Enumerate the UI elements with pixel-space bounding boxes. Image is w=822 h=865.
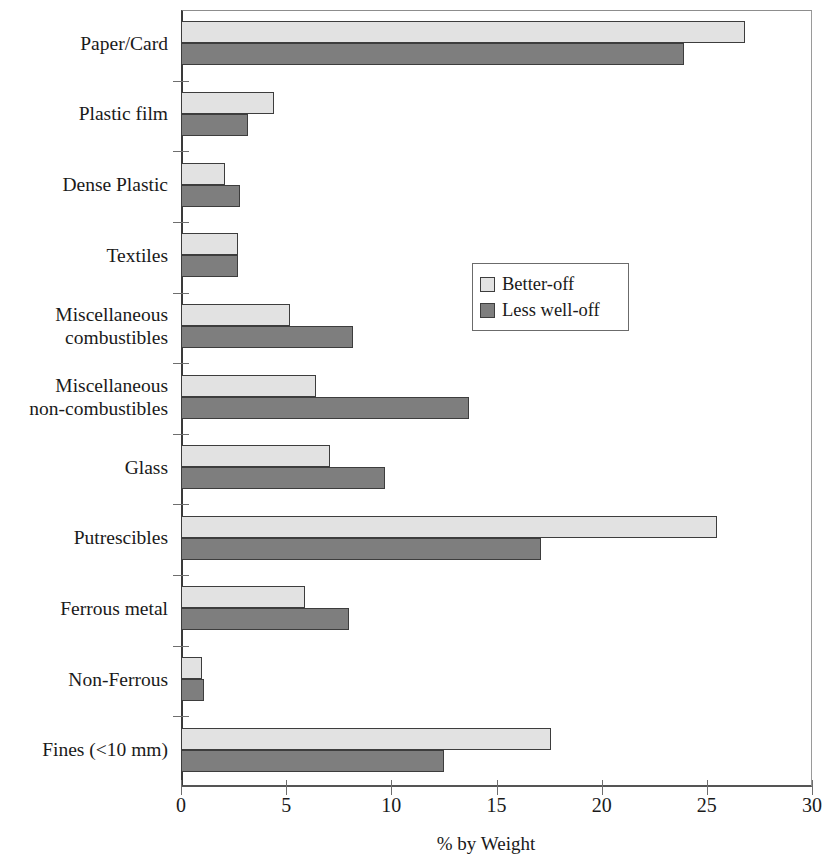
bar-better-off [181, 375, 316, 397]
bar-less-well-off [181, 679, 204, 701]
y-axis-tick [173, 646, 189, 647]
x-axis-tick-label: 20 [572, 794, 632, 817]
category-label: Miscellaneous combustibles [0, 303, 168, 349]
category-label: Putrescibles [0, 526, 168, 549]
bar-better-off [181, 445, 330, 467]
category-label: Non-Ferrous [0, 668, 168, 691]
y-axis-tick [173, 575, 189, 576]
legend-swatch-less-well-off [480, 303, 495, 318]
y-axis-tick [173, 504, 189, 505]
bar-better-off [181, 516, 717, 538]
x-axis-title: % by Weight [0, 833, 822, 855]
bar-better-off [181, 728, 551, 750]
category-label: Dense Plastic [0, 173, 168, 196]
category-label: Fines (<10 mm) [0, 738, 168, 761]
bar-less-well-off [181, 538, 541, 560]
bar-less-well-off [181, 397, 469, 419]
x-axis-tick-label: 0 [151, 794, 211, 817]
x-axis-tick [707, 780, 708, 795]
category-label: Paper/Card [0, 32, 168, 55]
bar-less-well-off [181, 326, 353, 348]
legend-label-less-well-off: Less well-off [502, 300, 600, 320]
y-axis-tick [173, 434, 189, 435]
bar-less-well-off [181, 750, 444, 772]
y-axis-tick [173, 222, 189, 223]
bar-less-well-off [181, 255, 238, 277]
category-label: Glass [0, 456, 168, 479]
y-axis-tick [173, 151, 189, 152]
x-axis-tick [602, 780, 603, 795]
bar-better-off [181, 233, 238, 255]
y-axis-tick [173, 293, 189, 294]
bar-chart: Paper/CardPlastic filmDense PlasticTexti… [0, 0, 822, 865]
category-label: Miscellaneous non-combustibles [0, 374, 168, 420]
bar-better-off [181, 163, 225, 185]
x-axis-tick-label: 30 [782, 794, 822, 817]
y-axis-tick [173, 716, 189, 717]
category-label: Ferrous metal [0, 597, 168, 620]
y-axis-tick [173, 363, 189, 364]
bar-better-off [181, 21, 745, 43]
x-axis-tick-label: 10 [361, 794, 421, 817]
x-axis-tick-label: 5 [256, 794, 316, 817]
x-axis-tick [181, 780, 182, 795]
legend-entry-less-well-off: Less well-off [480, 297, 622, 323]
x-axis-title-text: % by Weight [287, 833, 535, 855]
bar-less-well-off [181, 114, 248, 136]
bar-less-well-off [181, 608, 349, 630]
chart-legend: Better-off Less well-off [472, 263, 629, 331]
x-axis-tick-label: 15 [467, 794, 527, 817]
bar-less-well-off [181, 185, 240, 207]
x-axis-tick [497, 780, 498, 795]
legend-label-better-off: Better-off [502, 274, 574, 294]
x-axis-tick [391, 780, 392, 795]
x-axis-tick [812, 780, 813, 795]
bar-better-off [181, 586, 305, 608]
legend-entry-better-off: Better-off [480, 271, 622, 297]
bar-less-well-off [181, 43, 684, 65]
bar-better-off [181, 92, 274, 114]
category-label: Plastic film [0, 102, 168, 125]
bar-better-off [181, 304, 290, 326]
bar-less-well-off [181, 467, 385, 489]
y-axis-tick [173, 81, 189, 82]
x-axis-tick [286, 780, 287, 795]
bar-better-off [181, 657, 202, 679]
legend-swatch-better-off [480, 277, 495, 292]
category-label: Textiles [0, 244, 168, 267]
x-axis-tick-label: 25 [677, 794, 737, 817]
